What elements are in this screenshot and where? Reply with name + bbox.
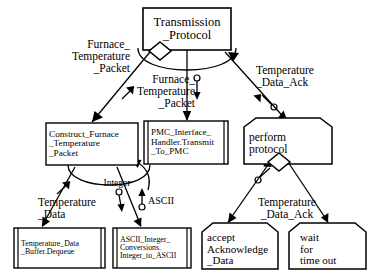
node-perform-protocol[interactable]: perform protocol — [249, 126, 329, 162]
edge-label-integer: Integer — [92, 178, 142, 188]
node-accept-acknowledge[interactable]: accept Acknowledge _Data — [207, 231, 277, 268]
node-temperature-data-buffer[interactable]: Temperature_Data _Buffer.Dequeue — [21, 230, 101, 266]
dataflow-line-temperature-data-ack-top — [262, 95, 272, 105]
edge-label-furnace-packet-mid: Furnace_ Temperature _Packet — [113, 73, 195, 110]
node-construct-furnace[interactable]: Construct_Furnace _Temperature _Packet — [49, 124, 137, 164]
node-label-wait-for-timeout: wait for time out — [300, 232, 366, 266]
node-pmc-interface[interactable]: PMC_Interface_ Handler.Transmit _To_PMC — [151, 122, 225, 163]
edge-label-temperature-data-ack-bottom: Temperature _Data_Ack — [235, 196, 339, 220]
node-label-temperature-data-buffer: Temperature_Data _Buffer.Dequeue — [21, 240, 101, 256]
node-label-pmc-interface: PMC_Interface_ Handler.Transmit _To_PMC — [151, 128, 225, 156]
arrowhead-construct-furnace — [92, 111, 103, 122]
edge-label-temperature-data-ack-top: Temperature _Data_Ack — [256, 64, 366, 88]
node-ascii-integer-conversions[interactable]: ASCII_Integer_ Conversions. Integer_to_A… — [120, 230, 188, 266]
node-label-perform-protocol: perform protocol — [249, 132, 329, 156]
edge-label-furnace-packet-left: Furnace_ Temperature _Packet — [46, 38, 130, 75]
node-label-construct-furnace: Construct_Furnace _Temperature _Packet — [49, 130, 137, 159]
structure-chart-diagram: Transmission _Protocol Construct_Furnace… — [0, 0, 374, 277]
edge-label-ascii: ASCII — [148, 196, 192, 207]
dataflow-circle-ascii — [139, 204, 145, 210]
edge-label-temperature-data: Temperature _Data — [38, 196, 128, 220]
node-transmission-protocol[interactable]: Transmission _Protocol — [145, 9, 229, 49]
dataflow-circle-integer — [116, 189, 122, 195]
dataflow-arrow-ascii — [138, 188, 145, 196]
arrowhead-pmc-interface — [183, 111, 191, 121]
node-wait-for-timeout[interactable]: wait for time out — [300, 231, 366, 268]
node-label-transmission-protocol: Transmission _Protocol — [154, 16, 221, 42]
node-label-ascii-integer-conversions: ASCII_Integer_ Conversions. Integer_to_A… — [120, 236, 188, 260]
dataflow-arrow-temperature-data-ack-top — [254, 94, 262, 103]
node-label-accept-acknowledge: accept Acknowledge _Data — [207, 232, 277, 266]
